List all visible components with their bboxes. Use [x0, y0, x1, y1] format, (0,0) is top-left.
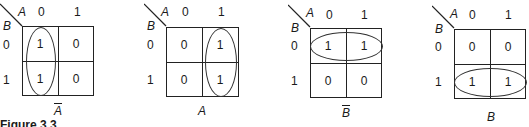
row-header-1: 1 [435, 75, 442, 89]
grouping-loop [205, 28, 237, 97]
column-header-1: 1 [361, 8, 368, 22]
grouping-loop [310, 32, 383, 61]
column-variable-label: A [161, 5, 169, 19]
row-header-1: 1 [147, 73, 154, 87]
row-variable-label: B [147, 19, 155, 33]
cell-r1-c0: 0 [166, 63, 202, 98]
row-header-1: 1 [3, 73, 10, 87]
cell-r0-c1: 0 [490, 30, 526, 65]
column-header-0: 0 [326, 8, 333, 22]
cell-r0-c1: 0 [58, 27, 94, 62]
kmap-a-bar: A B 0 1 0 1 1 0 1 0 A [0, 0, 130, 127]
row-header-0: 0 [435, 40, 442, 54]
row-header-0: 0 [3, 38, 10, 52]
row-variable-label: B [3, 19, 11, 33]
column-header-0: 0 [182, 5, 189, 19]
column-variable-label: A [306, 6, 314, 20]
grouping-loop [454, 68, 527, 97]
column-variable-label: A [18, 5, 26, 19]
cell-r0-c0: 0 [454, 30, 490, 65]
map-caption: A [198, 104, 206, 118]
column-header-1: 1 [74, 5, 81, 19]
cell-r1-c0: 0 [310, 64, 346, 99]
row-variable-label: B [291, 21, 299, 35]
grouping-loop [26, 27, 56, 96]
cell-r1-c1: 0 [346, 64, 382, 99]
column-header-0: 0 [469, 8, 476, 22]
kmap-a: A B 0 1 0 1 0 1 0 1 A [130, 0, 260, 127]
cell-r1-c1: 0 [58, 62, 94, 97]
map-caption: A [54, 104, 62, 118]
row-variable-label: B [435, 22, 443, 36]
map-caption: B [342, 106, 350, 120]
row-header-0: 0 [147, 38, 154, 52]
column-header-1: 1 [218, 5, 225, 19]
row-header-1: 1 [291, 74, 298, 88]
row-header-0: 0 [291, 39, 298, 53]
figure-caption: Figure 3.3 [0, 118, 57, 127]
cell-r0-c0: 0 [166, 28, 202, 63]
column-variable-label: A [450, 7, 458, 21]
kmap-b-bar: A B 0 1 0 1 1 1 0 0 B [265, 0, 395, 127]
kmap-b: A B 0 1 0 1 0 0 1 1 B [395, 0, 525, 127]
column-header-1: 1 [505, 8, 512, 22]
column-header-0: 0 [38, 5, 45, 19]
map-caption: B [487, 110, 495, 124]
